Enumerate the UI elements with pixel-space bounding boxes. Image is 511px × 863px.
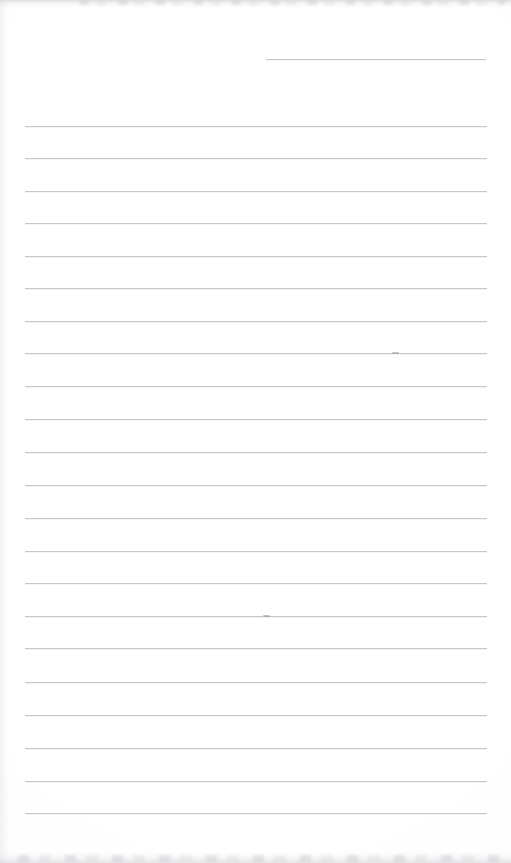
rule-line (25, 288, 487, 289)
scanned-page (0, 0, 511, 863)
rule-line (25, 715, 487, 716)
rule-line (25, 191, 487, 192)
scan-shadow-bottom (0, 851, 511, 863)
rule-line (25, 419, 487, 420)
paper-surface (0, 0, 511, 863)
rule-line (25, 353, 487, 354)
rule-line (25, 682, 487, 683)
scan-shadow-top (0, 0, 511, 8)
scan-shadow-left (0, 0, 9, 863)
rule-line (25, 485, 487, 486)
rule-line (25, 551, 487, 552)
rule-line-short (266, 59, 486, 60)
rule-line (25, 256, 487, 257)
rule-line (25, 223, 487, 224)
rule-line (25, 748, 487, 749)
rule-line (25, 321, 487, 322)
rule-line (25, 158, 487, 159)
rule-line (25, 583, 487, 584)
rule-line (25, 452, 487, 453)
rule-line (25, 386, 487, 387)
rule-line (25, 126, 487, 127)
rule-line (25, 781, 487, 782)
rule-line (25, 648, 487, 649)
rule-line (25, 813, 487, 814)
rule-line (25, 518, 487, 519)
rule-line (25, 616, 487, 617)
